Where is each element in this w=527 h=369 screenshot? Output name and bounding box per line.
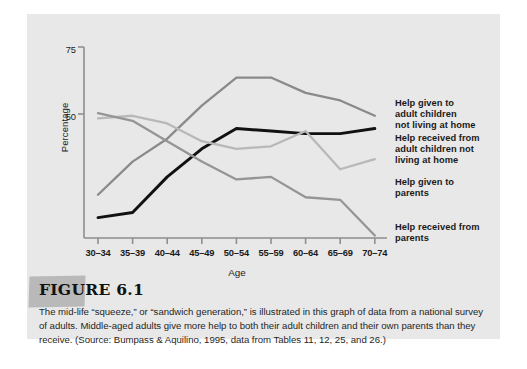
x-axis-title: Age bbox=[87, 267, 387, 278]
series-line bbox=[98, 128, 375, 217]
x-tick-label: 70–74 bbox=[352, 248, 398, 258]
legend-line-1: Help given to bbox=[395, 177, 454, 188]
figure-caption: The mid-life “squeeze,” or “sandwich gen… bbox=[39, 305, 491, 348]
legend-line-1: Help received from bbox=[395, 222, 480, 233]
x-tick-marks bbox=[98, 238, 375, 244]
legend-line-3: living at home bbox=[395, 155, 480, 166]
legend-line-1: Help received from bbox=[395, 133, 480, 144]
series-lines bbox=[98, 78, 375, 236]
legend-item-help-given-parents: Help given to parents bbox=[395, 177, 454, 199]
legend-item-help-received-children: Help received from adult children not li… bbox=[395, 133, 480, 167]
legend-line-2: parents bbox=[395, 233, 480, 244]
chart-plot-area: 75 50 Percentage 30–3435–3940–4445–4950–… bbox=[27, 14, 500, 270]
series-line bbox=[98, 113, 375, 235]
legend-line-2: adult children bbox=[395, 109, 475, 120]
legend-item-help-given-children: Help given to adult children not living … bbox=[395, 98, 475, 132]
figure-heading: FIGURE 6.1 bbox=[39, 280, 144, 299]
legend-line-3: not living at home bbox=[395, 120, 475, 131]
legend-item-help-received-parents: Help received from parents bbox=[395, 222, 480, 244]
series-line bbox=[98, 78, 375, 195]
figure-panel: 75 50 Percentage 30–3435–3940–4445–4950–… bbox=[27, 14, 500, 339]
legend-line-2: parents bbox=[395, 188, 454, 199]
legend-line-1: Help given to bbox=[395, 98, 475, 109]
legend-line-2: adult children not bbox=[395, 144, 480, 155]
